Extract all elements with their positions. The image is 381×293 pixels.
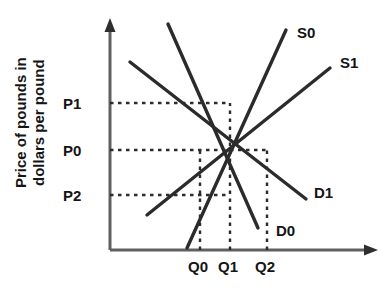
x-axis-arrowhead [364, 245, 378, 256]
y-tick-label-p1: P1 [63, 95, 81, 112]
curve-label-d0: D0 [276, 222, 295, 239]
y-tick-label-p2: P2 [63, 187, 81, 204]
x-tick-label-q1: Q1 [218, 258, 238, 275]
y-tick-label-p0: P0 [63, 142, 81, 159]
x-tick-label-q0: Q0 [188, 258, 208, 275]
y-axis-arrowhead [105, 18, 116, 32]
supply-curve-s0 [187, 30, 286, 248]
supply-demand-chart: Price of pounds in dollars per pound P1 … [0, 0, 381, 293]
axes-group [105, 18, 379, 256]
x-tick-label-q2: Q2 [255, 258, 275, 275]
curve-label-s1: S1 [340, 54, 358, 71]
supply-curve-s1 [147, 68, 330, 215]
chart-plot-area [0, 0, 381, 293]
curve-label-s0: S0 [297, 24, 315, 41]
y-axis-title: Price of pounds in dollars per pound [12, 43, 47, 203]
curve-label-d1: D1 [314, 184, 333, 201]
